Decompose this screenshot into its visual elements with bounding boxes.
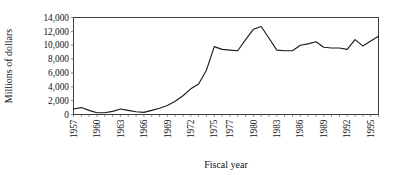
- x-tick-label: 1977: [225, 119, 235, 138]
- line-chart: 14,00012,00010,0008,0006,0004,0002,0000 …: [0, 0, 395, 175]
- data-series-line: [74, 27, 379, 113]
- x-tick-label: 1989: [319, 119, 329, 138]
- x-tick-label: 1980: [249, 119, 259, 138]
- y-tick-label: 2,000: [48, 96, 69, 106]
- y-tick-label: 4,000: [48, 82, 69, 92]
- y-tick-label: 6,000: [48, 68, 69, 78]
- x-tick-label: 1960: [92, 119, 102, 138]
- y-axis-tick-labels: 14,00012,00010,0008,0006,0004,0002,0000: [43, 13, 69, 120]
- x-tick-label: 1983: [272, 119, 282, 138]
- x-axis-tick-labels: 1957196019631966196919721975197719801983…: [69, 119, 376, 138]
- plot-frame: [74, 18, 379, 115]
- x-axis-title: Fiscal year: [204, 159, 248, 170]
- x-tick-label: 1986: [295, 119, 305, 138]
- x-tick-label: 1995: [366, 119, 376, 138]
- chart-figure: 14,00012,00010,0008,0006,0004,0002,0000 …: [0, 0, 395, 175]
- x-tick-label: 1969: [163, 119, 173, 138]
- x-tick-label: 1975: [209, 119, 219, 138]
- x-tick-label: 1957: [69, 119, 79, 138]
- x-tick-label: 1963: [116, 119, 126, 138]
- y-tick-label: 0: [64, 110, 69, 120]
- x-tick-label: 1966: [139, 119, 149, 138]
- y-axis-title: Millions of dollars: [3, 29, 14, 104]
- x-tick-label: 1972: [186, 119, 196, 138]
- x-tick-label: 1992: [342, 119, 352, 138]
- y-tick-label: 10,000: [43, 40, 69, 50]
- y-tick-label: 8,000: [48, 54, 69, 64]
- y-tick-label: 12,000: [43, 27, 69, 37]
- y-tick-label: 14,000: [43, 13, 69, 23]
